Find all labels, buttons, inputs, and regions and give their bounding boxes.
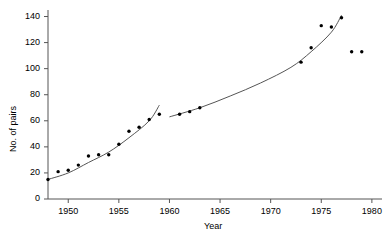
x-axis-tick-label: 1975: [301, 207, 341, 216]
data-point: [56, 170, 59, 173]
y-axis-tick-label: 80: [6, 90, 40, 99]
data-points-group: [46, 16, 363, 181]
x-axis-tick-label: 1980: [352, 207, 392, 216]
y-axis-tick-label: 0: [6, 194, 40, 203]
data-point: [299, 60, 302, 63]
data-point: [97, 153, 100, 156]
data-point: [67, 169, 70, 172]
y-axis-ticks: [44, 17, 48, 199]
data-point: [340, 16, 343, 19]
data-point: [46, 178, 49, 181]
data-point: [87, 154, 90, 157]
plot-area: [0, 0, 392, 240]
fitted-curve: [48, 105, 159, 179]
x-axis-tick-label: 1960: [149, 207, 189, 216]
data-point: [320, 24, 323, 27]
data-point: [198, 106, 201, 109]
x-axis-title: Year: [204, 222, 222, 231]
data-point: [330, 25, 333, 28]
x-axis-tick-label: 1965: [200, 207, 240, 216]
axes-group: [44, 10, 382, 203]
data-point: [77, 163, 80, 166]
x-axis-tick-label: 1970: [251, 207, 291, 216]
data-point: [107, 153, 110, 156]
data-point: [137, 126, 140, 129]
y-axis-tick-label: 120: [6, 38, 40, 47]
data-point: [178, 113, 181, 116]
y-axis-tick-label: 100: [6, 64, 40, 73]
data-point: [188, 110, 191, 113]
data-point: [360, 50, 363, 53]
data-point: [350, 50, 353, 53]
fitted-curve-group: [48, 15, 342, 179]
fitted-curve: [169, 15, 341, 117]
x-axis-tick-label: 1950: [48, 207, 88, 216]
chart-container: 020406080100120140 195019551960196519701…: [0, 0, 392, 240]
x-axis-ticks: [68, 199, 372, 203]
data-point: [309, 46, 312, 49]
data-point: [148, 118, 151, 121]
data-point: [127, 130, 130, 133]
y-axis-tick-label: 140: [6, 12, 40, 21]
data-point: [158, 113, 161, 116]
y-axis-tick-label: 20: [6, 168, 40, 177]
x-axis-tick-label: 1955: [99, 207, 139, 216]
data-point: [117, 143, 120, 146]
y-axis-title: No. of pairs: [9, 106, 18, 152]
